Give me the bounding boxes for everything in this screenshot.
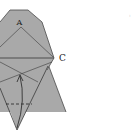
label-point-a: A <box>16 18 23 27</box>
upper-flap <box>0 10 54 78</box>
label-point-c: C <box>59 53 66 63</box>
origami-diagram: A C : <box>0 0 132 130</box>
clipped-text-fragment: : <box>129 12 131 18</box>
